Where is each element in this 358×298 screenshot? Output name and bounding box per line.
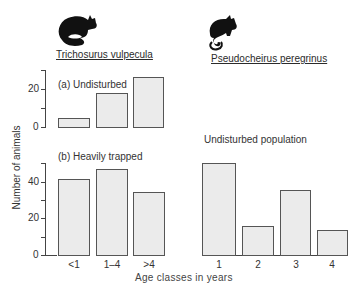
panel-right-label: Undisturbed population [204, 134, 307, 145]
species-label-left: Trichosurus vulpecula [56, 49, 153, 60]
bar-right-3 [280, 190, 311, 256]
panel-a-tick-0 [41, 127, 45, 128]
xtick-left-2: >4 [134, 259, 164, 270]
panel-a-label: (a) Undisturbed [58, 79, 127, 90]
bar-b-gt4 [133, 192, 165, 256]
panel-a-tick-label-0: 0 [33, 121, 39, 132]
panel-b-tick-label-40: 40 [28, 176, 39, 187]
panel-a-tick-label-20: 20 [28, 83, 39, 94]
panel-b-label: (b) Heavily trapped [58, 151, 142, 162]
panel-b-tick-20 [41, 218, 45, 219]
panel-b-tick-label-0: 0 [33, 249, 39, 260]
panel-b-tick-30 [41, 200, 45, 201]
bar-a-lt1 [58, 118, 90, 128]
xtick-right-3: 4 [317, 259, 347, 270]
species-label-right: Pseudocheirus peregrinus [211, 53, 327, 64]
bar-a-gt4 [133, 77, 164, 128]
panel-a-tick-top [41, 70, 45, 71]
xtick-right-2: 3 [281, 259, 311, 270]
xtick-left-1: 1–4 [97, 259, 127, 270]
bar-a-1to4 [96, 93, 128, 128]
panel-a-tick-20 [41, 89, 45, 90]
panel-b-tick-40 [41, 182, 45, 183]
x-axis-label: Age classes in years [135, 272, 233, 283]
bar-right-2 [242, 226, 274, 256]
bar-b-lt1 [58, 179, 90, 256]
panel-a-y-axis [45, 70, 46, 128]
y-axis-label: Number of animals [11, 123, 22, 213]
ringtail-possum-icon [200, 12, 244, 52]
panel-b-tick-top [41, 163, 45, 164]
xtick-left-0: <1 [59, 259, 89, 270]
panel-b-tick-label-20: 20 [28, 212, 39, 223]
panel-b-y-axis [45, 163, 46, 256]
xtick-right-0: 1 [204, 259, 234, 270]
bar-right-4 [317, 230, 348, 256]
panel-b-tick-10 [41, 237, 45, 238]
panel-a-tick-10 [41, 108, 45, 109]
brushtail-possum-icon [54, 10, 100, 48]
xtick-right-1: 2 [243, 259, 273, 270]
bar-right-1 [202, 163, 236, 256]
bar-b-1to4 [96, 169, 128, 256]
panel-b-baseline-tick [41, 255, 57, 256]
